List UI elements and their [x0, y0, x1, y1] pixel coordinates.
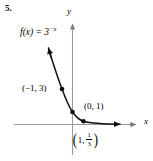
- point-label-neg1-3: (−1, 3): [22, 83, 47, 93]
- fraction-numerator: 1: [86, 132, 91, 139]
- exponential-function-figure: 5. f(x) = 3−x x y (−1, 3) (0, 1) ( 1: [0, 0, 153, 161]
- curve-upper-arrow: [49, 48, 52, 57]
- point-comma: ,: [82, 135, 84, 145]
- point-label-1-one-third: ( 1 , 1 3 ): [72, 131, 98, 148]
- close-paren: ): [93, 131, 97, 148]
- open-paren: (: [73, 131, 77, 148]
- point-marker-neg1-3: [60, 87, 65, 92]
- function-label: f(x) = 3−x: [20, 25, 56, 37]
- function-label-base: f(x) = 3: [20, 27, 49, 37]
- fraction-denominator: 3: [86, 141, 91, 148]
- function-label-exponent: −x: [49, 25, 56, 32]
- fraction-one-third: 1 3: [86, 132, 91, 147]
- point-marker-0-1: [70, 110, 75, 115]
- y-axis-label: y: [67, 6, 71, 16]
- point-marker-1-one-third: [81, 119, 86, 124]
- x-axis-label: x: [144, 116, 148, 126]
- point-label-0-1: (0, 1): [84, 101, 104, 111]
